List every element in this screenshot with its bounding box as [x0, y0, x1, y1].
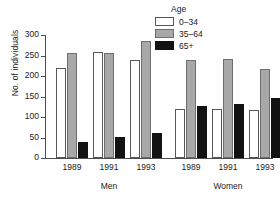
bar-chart-figure: No. of individuals 050100150200250300 19… [0, 0, 280, 200]
bar [197, 106, 207, 158]
bar [175, 109, 185, 158]
y-tick-mark [41, 158, 45, 159]
bar [104, 53, 114, 158]
y-tick-mark [41, 35, 45, 36]
y-tick-label: 250 [25, 50, 39, 60]
bar [186, 60, 196, 158]
legend-entry-label: 35–64 [179, 29, 203, 39]
x-axis-line [45, 158, 273, 159]
bar [212, 109, 222, 158]
plot-area: 050100150200250300 198919911993198919911… [45, 35, 273, 158]
y-tick-label: 200 [25, 70, 39, 80]
x-tick-label: 1993 [124, 162, 168, 172]
bar [141, 41, 151, 158]
legend-entries: 0–3435–6465+ [155, 16, 235, 51]
legend-title: Age [171, 4, 235, 14]
bar [260, 69, 270, 158]
y-tick-label: 300 [25, 29, 39, 39]
bar [223, 59, 233, 158]
bar [78, 142, 88, 158]
legend-entry: 65+ [155, 40, 235, 51]
gray-swatch [155, 29, 174, 38]
x-axis-group-label: Women [175, 181, 280, 191]
legend-entry-label: 65+ [179, 41, 193, 51]
y-tick-label: 100 [25, 111, 39, 121]
y-tick-mark [41, 76, 45, 77]
bar [234, 104, 244, 158]
legend-entry: 35–64 [155, 28, 235, 39]
y-tick-label: 150 [25, 91, 39, 101]
y-tick-mark [41, 56, 45, 57]
x-tick-label: 1993 [243, 162, 280, 172]
legend-entry: 0–34 [155, 16, 235, 27]
bar [152, 133, 162, 158]
bar [249, 110, 259, 158]
y-tick-label: 0 [34, 152, 39, 162]
y-tick-mark [41, 97, 45, 98]
white-swatch [155, 17, 174, 26]
bar [130, 60, 140, 158]
x-axis-group-label: Men [56, 181, 162, 191]
legend-entry-label: 0–34 [179, 17, 198, 27]
black-swatch [155, 41, 174, 50]
bar [67, 53, 77, 158]
bar [93, 52, 103, 158]
legend: Age 0–3435–6465+ [155, 4, 235, 52]
bar [115, 137, 125, 158]
y-tick-mark [41, 117, 45, 118]
y-tick-label: 50 [30, 132, 39, 142]
y-axis-title: No. of individuals [10, 8, 20, 118]
y-tick-mark [41, 138, 45, 139]
bar [271, 98, 280, 158]
bar [56, 68, 66, 158]
y-axis-line [45, 35, 46, 158]
